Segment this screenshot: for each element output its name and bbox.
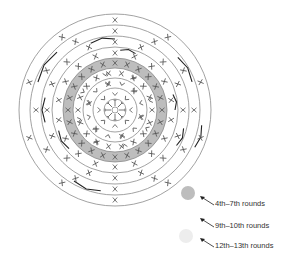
x-stitch-icon — [49, 133, 55, 139]
spoke-stitch-icon — [107, 102, 113, 108]
x-stitch-icon — [93, 75, 99, 82]
x-stitch-icon — [34, 108, 39, 112]
arrowhead-icon — [200, 238, 205, 242]
v-stitch-icon — [130, 108, 133, 113]
v-stitch-icon — [113, 125, 118, 128]
crochet-chart — [0, 0, 282, 271]
x-stitch-icon — [86, 170, 92, 176]
v-stitch-icon — [98, 108, 101, 113]
arrowhead-icon — [200, 218, 205, 222]
x-stitch-icon — [150, 108, 155, 112]
legend-swatch — [179, 229, 193, 243]
x-stitch-icon — [161, 135, 168, 141]
stitch-symbols — [26, 18, 203, 203]
x-stitch-icon — [151, 38, 157, 45]
x-stitch-icon — [180, 67, 187, 73]
spoke-stitch-icon — [107, 112, 113, 118]
spoke-stitch-icon — [119, 109, 125, 112]
round-rings — [19, 14, 211, 206]
arrow-icon — [203, 240, 214, 247]
bracket-mark — [176, 128, 183, 145]
x-stitch-icon — [113, 165, 117, 170]
x-stitch-icon — [93, 160, 99, 166]
x-stitch-icon — [140, 83, 147, 90]
v-stitch-icon — [123, 118, 129, 124]
x-stitch-icon — [75, 150, 82, 157]
v-stitch-icon — [80, 89, 85, 95]
x-stitch-icon — [131, 88, 138, 95]
v-stitch-icon — [144, 126, 149, 132]
x-stitch-icon — [26, 79, 32, 85]
x-stitch-icon — [140, 130, 147, 137]
arrow-icon — [203, 220, 214, 227]
x-stitch-icon — [175, 81, 181, 87]
v-stitch-icon — [139, 100, 143, 106]
v-stitch-icon — [105, 134, 111, 138]
spoke-stitch-icon — [117, 112, 123, 118]
legend-label-9th-10th: 9th–10th rounds — [215, 222, 269, 230]
x-stitch-icon — [113, 40, 117, 45]
arrowhead-icon — [200, 196, 205, 200]
x-stitch-icon — [76, 108, 81, 112]
bracket-mark — [74, 181, 101, 191]
x-stitch-icon — [93, 53, 99, 59]
x-stitch-icon — [72, 38, 78, 45]
x-stitch-icon — [43, 146, 50, 152]
x-stitch-icon — [113, 187, 117, 192]
arrow-icon — [203, 198, 214, 205]
legend-arrows — [200, 196, 214, 247]
x-stitch-icon — [64, 155, 71, 162]
x-stitch-icon — [147, 94, 153, 100]
legend-swatch — [181, 186, 195, 200]
x-stitch-icon — [148, 63, 155, 70]
x-stitch-icon — [93, 126, 100, 133]
x-stitch-icon — [198, 79, 204, 85]
x-stitch-icon — [49, 81, 55, 87]
x-stitch-icon — [83, 83, 90, 90]
x-stitch-icon — [56, 98, 62, 103]
x-stitch-icon — [161, 78, 168, 84]
v-stitch-icon — [101, 118, 107, 124]
x-stitch-icon — [72, 175, 78, 182]
x-stitch-icon — [113, 18, 117, 23]
legend-label-4th-7th: 4th–7th rounds — [215, 200, 265, 208]
x-stitch-icon — [151, 175, 157, 182]
round-ring — [73, 68, 157, 152]
x-stitch-icon — [168, 117, 174, 122]
round-ring — [19, 14, 211, 206]
x-stitch-icon — [119, 71, 124, 77]
x-stitch-icon — [192, 108, 197, 112]
x-stitch-icon — [138, 170, 144, 176]
bracket-mark — [173, 94, 177, 110]
x-stitch-icon — [106, 144, 111, 150]
x-stitch-icon — [86, 44, 92, 50]
x-stitch-icon — [64, 59, 71, 66]
x-stitch-icon — [181, 108, 186, 112]
spoke-stitch-icon — [105, 109, 111, 112]
x-stitch-icon — [56, 117, 62, 122]
x-stitch-icon — [62, 78, 69, 84]
v-stitch-icon — [87, 114, 91, 120]
x-stitch-icon — [113, 198, 117, 203]
x-stitch-icon — [59, 179, 65, 186]
round-ring — [112, 107, 118, 113]
x-stitch-icon — [43, 67, 50, 73]
spoke-stitch-icon — [117, 102, 123, 108]
v-stitch-icon — [93, 88, 99, 94]
x-stitch-icon — [45, 108, 50, 112]
v-stitch-icon — [123, 96, 129, 102]
x-stitch-icon — [75, 63, 82, 70]
v-stitch-icon — [131, 126, 137, 132]
x-stitch-icon — [113, 51, 117, 56]
x-stitch-icon — [113, 176, 117, 181]
x-stitch-icon — [160, 59, 167, 66]
x-stitch-icon — [165, 179, 171, 186]
spoke-stitch-icon — [114, 114, 117, 120]
x-stitch-icon — [83, 130, 90, 137]
x-stitch-icon — [77, 120, 83, 126]
x-stitch-icon — [168, 98, 174, 103]
bracket-mark — [42, 98, 45, 123]
v-stitch-icon — [113, 93, 118, 96]
x-stitch-icon — [147, 120, 153, 126]
x-stitch-icon — [132, 53, 138, 59]
